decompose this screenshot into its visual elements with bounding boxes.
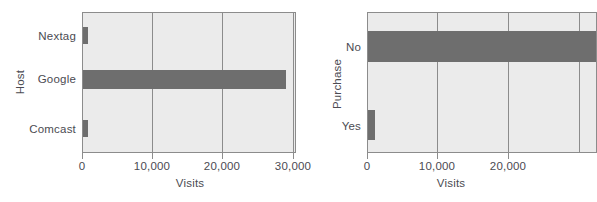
y-axis-title-host: Host bbox=[14, 70, 26, 94]
xtick-label-10000: 10,000 bbox=[419, 160, 455, 172]
plot-area-purchase bbox=[367, 12, 597, 153]
category-label-comcast: Comcast bbox=[0, 123, 76, 135]
category-label-no: No bbox=[285, 41, 361, 53]
xtick-label-0: 0 bbox=[364, 160, 371, 172]
bar-yes bbox=[368, 110, 375, 140]
bar-nextag bbox=[83, 27, 88, 44]
xtick-mark-0 bbox=[367, 153, 368, 159]
category-label-yes: Yes bbox=[285, 120, 361, 132]
xtick-label-20000: 20,000 bbox=[204, 160, 240, 172]
xtick-mark-10000 bbox=[152, 153, 153, 159]
chart-panel-purchase: No Yes 0 10,000 20,000 Visits Purchase bbox=[285, 0, 524, 202]
x-axis-title-purchase: Visits bbox=[437, 177, 465, 189]
plot-area-host bbox=[82, 12, 296, 153]
xtick-label-0: 0 bbox=[79, 160, 86, 172]
xtick-mark-20000 bbox=[222, 153, 223, 159]
category-label-google: Google bbox=[0, 73, 76, 85]
y-axis-title-purchase: Purchase bbox=[331, 59, 343, 109]
category-label-nextag: Nextag bbox=[0, 30, 76, 42]
xtick-label-10000: 10,000 bbox=[134, 160, 170, 172]
chart-panel-host: Nextag Google Comcast 0 10,000 20,000 30… bbox=[0, 0, 300, 202]
bar-google bbox=[83, 70, 286, 89]
xtick-mark-0 bbox=[82, 153, 83, 159]
xtick-label-20000: 20,000 bbox=[490, 160, 526, 172]
x-axis-title-host: Visits bbox=[176, 177, 204, 189]
xtick-mark-20000 bbox=[508, 153, 509, 159]
bar-comcast bbox=[83, 120, 88, 137]
bar-no bbox=[368, 31, 596, 62]
xtick-mark-10000 bbox=[437, 153, 438, 159]
